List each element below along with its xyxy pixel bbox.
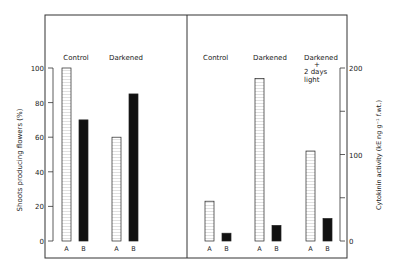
left-y-tick-label: 40 <box>35 169 44 177</box>
left-y-tick-label: 100 <box>31 65 44 73</box>
bar-label: A <box>207 245 212 253</box>
right-group-label: light <box>304 76 320 84</box>
bar-a <box>255 78 264 241</box>
left-y-tick-label: 0 <box>40 238 44 246</box>
right-y-axis-label: Cytokinin activity (kE ng g⁻¹ f.wt.) <box>375 100 383 210</box>
bar-label: B <box>325 245 329 253</box>
right-group-label: Control <box>203 54 228 62</box>
bar-label: A <box>64 245 69 253</box>
right-group-label: 2 days <box>304 68 328 76</box>
bar-a <box>62 68 71 241</box>
figure: 020406080100Shoots producing flowers (%)… <box>0 0 394 273</box>
bar-label: B <box>131 245 135 253</box>
bar-label: A <box>114 245 119 253</box>
left-y-tick-label: 20 <box>35 203 44 211</box>
left-y-tick-label: 60 <box>35 134 44 142</box>
bar-b <box>222 233 231 241</box>
bar-b <box>272 225 281 241</box>
right-y-tick-label: 200 <box>349 65 362 73</box>
left-group-label: Control <box>63 54 88 62</box>
bar-label: B <box>274 245 278 253</box>
bar-a <box>306 151 315 241</box>
right-y-tick-label: 0 <box>349 238 353 246</box>
left-group-label: Darkened <box>109 54 143 62</box>
bar-a <box>205 201 214 241</box>
bar-a <box>112 137 121 241</box>
left-y-tick-label: 80 <box>35 100 44 108</box>
plot-frame <box>45 15 347 258</box>
bar-b <box>323 219 332 241</box>
right-group-label: Darkened <box>304 54 338 62</box>
bar-label: A <box>308 245 313 253</box>
bar-label: B <box>81 245 85 253</box>
bar-b <box>129 94 138 241</box>
right-group-label: Darkened <box>253 54 287 62</box>
left-y-axis-label: Shoots producing flowers (%) <box>16 108 24 211</box>
bar-label: B <box>224 245 228 253</box>
right-y-tick-label: 100 <box>349 152 362 160</box>
bar-label: A <box>257 245 262 253</box>
bar-b <box>79 120 88 241</box>
